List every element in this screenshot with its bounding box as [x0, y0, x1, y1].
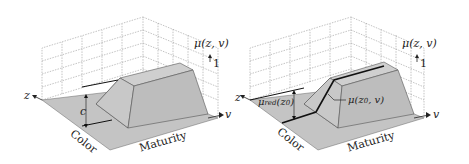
v-axis-label: v	[225, 109, 231, 120]
left-panel-fuzzy-surface: z v μ(z, v) 1 c Color Maturity	[0, 0, 235, 164]
one-tick-label: 1	[213, 58, 220, 69]
mu-red-sub: red	[265, 99, 277, 107]
mu-red-arg: (z	[276, 96, 285, 107]
v-axis-label: v	[433, 109, 439, 120]
left-3d-plot	[0, 0, 235, 164]
right-panel-fuzzy-slice: z v μ(z, v) 1 μred(z0) μ(z0, v) Color Ma…	[234, 0, 469, 164]
one-tick-label: 1	[420, 58, 427, 69]
mu-axis-label: μ(z, v)	[194, 38, 229, 49]
mu-slice-head: μ(z	[348, 94, 364, 105]
mu-red-label: μred(z0)	[258, 97, 294, 107]
mu-slice-tail: , v)	[368, 94, 384, 105]
c-label: c	[80, 106, 86, 117]
mu-red-close: )	[290, 96, 294, 107]
mu-axis-label: μ(z, v)	[402, 38, 437, 49]
z-axis-label: z	[235, 92, 241, 103]
mu-slice-label: μ(z0, v)	[348, 95, 384, 105]
z-axis-label: z	[24, 90, 30, 101]
